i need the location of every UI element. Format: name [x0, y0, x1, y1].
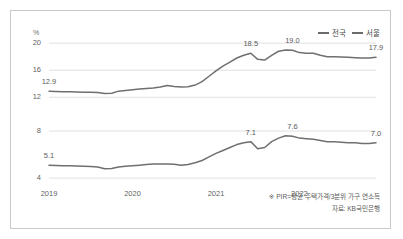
data-label-5-1: 5.1 — [34, 151, 64, 160]
footnote-definition: ※ PIR=평균 주택가격/3분위 가구 연소득 — [269, 191, 380, 201]
footnote-source: 자료: KB국민은행 — [332, 203, 380, 213]
data-label-12-9: 12.9 — [34, 77, 64, 86]
data-label-19-0: 19.0 — [278, 36, 308, 45]
data-label-7-6: 7.6 — [278, 122, 308, 131]
data-label-7-1: 7.1 — [236, 128, 266, 137]
data-label-18-5: 18.5 — [236, 39, 266, 48]
y-axis-tick-4: 4 — [19, 173, 41, 182]
y-axis-tick-16: 16 — [19, 65, 41, 74]
x-axis-tick-2019: 2019 — [29, 189, 69, 198]
y-axis-tick-12: 12 — [19, 92, 41, 101]
data-label-7-0: 7.0 — [361, 129, 391, 138]
x-axis-tick-2021: 2021 — [196, 189, 236, 198]
x-axis-tick-2020: 2020 — [112, 189, 152, 198]
data-label-17-9: 17.9 — [361, 43, 391, 52]
y-axis-tick-8: 8 — [19, 126, 41, 135]
chart-figure: % 전국 서울 121620482019202020212022 12.918.… — [10, 10, 391, 229]
y-axis-tick-20: 20 — [19, 38, 41, 47]
